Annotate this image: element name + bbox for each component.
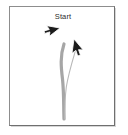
gesture-canvas[interactable] [10,7,114,125]
drawing-panel[interactable]: Start [9,6,115,126]
panel-shadow-right [115,8,116,127]
cursor-pointer-right-icon[interactable] [43,25,60,37]
panel-shadow-bottom [11,126,116,127]
thin-stroke-hit-area[interactable] [78,53,92,127]
thick-stroke-path [61,44,64,119]
screenshot-root: Start [0,0,128,135]
